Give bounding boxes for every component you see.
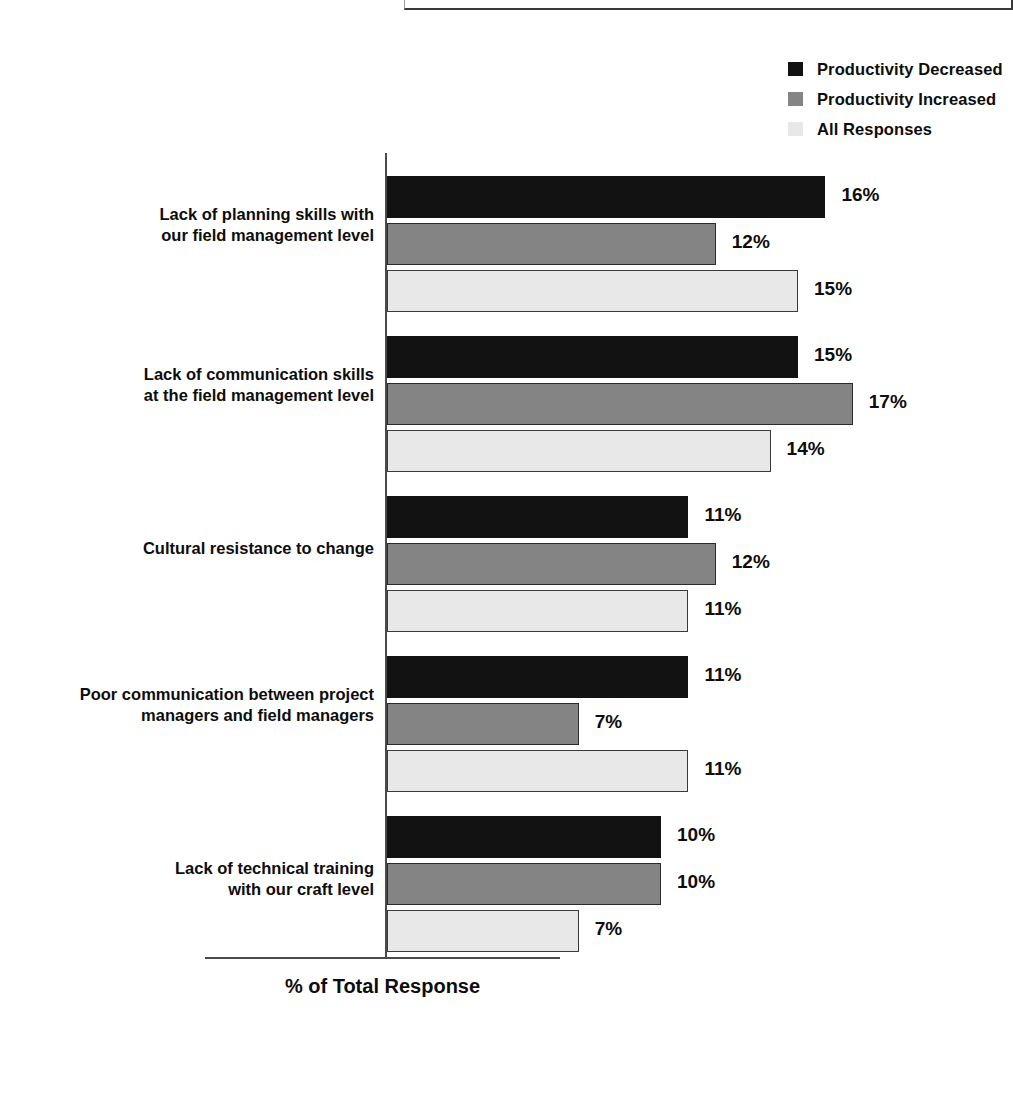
bar[interactable] [387,910,579,952]
x-axis-title: % of Total Response [205,975,560,998]
bar-value-label: 11% [704,758,741,780]
bar-group: Lack of communication skillsat the field… [0,322,1010,482]
bar-value-label: 14% [787,438,825,460]
bar[interactable] [387,863,661,905]
category-label: Lack of technical trainingwith our craft… [44,858,374,900]
bar-group: Lack of technical trainingwith our craft… [0,802,1010,962]
bar-value-label: 11% [704,598,741,620]
bar-value-label: 15% [814,344,852,366]
bar-value-label: 16% [841,184,879,206]
bar-value-label: 17% [869,391,907,413]
bar-value-label: 7% [595,918,622,940]
bar[interactable] [387,336,798,378]
bar-value-label: 15% [814,278,852,300]
bar[interactable] [387,750,688,792]
bar[interactable] [387,383,853,425]
bar[interactable] [387,176,825,218]
bar-group: Lack of planning skills withour field ma… [0,162,1010,322]
bar-value-label: 10% [677,824,715,846]
bar-value-label: 12% [732,551,770,573]
bar-group: Poor communication between projectmanage… [0,642,1010,802]
category-label: Poor communication between projectmanage… [44,684,374,726]
category-label: Lack of communication skillsat the field… [44,364,374,406]
category-label: Cultural resistance to change [44,538,374,559]
bar-value-label: 11% [704,504,741,526]
bar-value-label: 11% [704,664,741,686]
category-label: Lack of planning skills withour field ma… [44,204,374,246]
bar-group: Cultural resistance to change11%12%11% [0,482,1010,642]
bar[interactable] [387,816,661,858]
bar[interactable] [387,656,688,698]
bar[interactable] [387,590,688,632]
bar-value-label: 7% [595,711,622,733]
bar-value-label: 10% [677,871,715,893]
bar[interactable] [387,270,798,312]
bar[interactable] [387,223,716,265]
bar[interactable] [387,496,688,538]
bar-value-label: 12% [732,231,770,253]
bar[interactable] [387,430,771,472]
bar[interactable] [387,703,579,745]
bar[interactable] [387,543,716,585]
